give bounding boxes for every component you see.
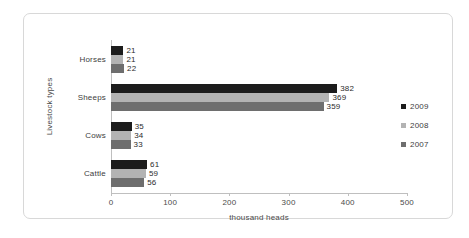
x-axis-tick-label: 0 [109,198,114,207]
bar-value-label: 21 [126,46,135,55]
y-axis-category-labels: HorsesSheepsCowsCattle [58,40,106,192]
legend-swatch-icon [401,142,406,147]
bar-value-label: 22 [127,64,136,73]
x-axis-line [111,193,408,194]
bar [111,93,329,102]
legend-swatch-icon [401,104,406,109]
bar [111,102,324,111]
plot-area: 212122382369359353433615956 [111,40,407,192]
x-axis-tick [348,193,349,196]
x-axis-tick-label: 200 [222,198,236,207]
bar [111,160,147,169]
bar-value-label: 56 [147,178,156,187]
legend-label: 2009 [410,102,429,111]
bar-value-label: 34 [134,131,143,140]
bar [111,46,123,55]
x-axis-tick-label: 300 [282,198,296,207]
chart-frame: 0100200300400500 thousand heads Livestoc… [23,13,453,219]
x-axis-tick [407,193,408,196]
x-axis-tick [170,193,171,196]
x-axis-title: thousand heads [111,213,407,222]
bar [111,55,123,64]
x-axis-tick [289,193,290,196]
bar [111,178,144,187]
chart-figure: 0100200300400500 thousand heads Livestoc… [0,0,469,238]
bar-value-label: 61 [150,160,159,169]
x-axis-tick-label: 500 [400,198,414,207]
legend-item[interactable]: 2007 [401,136,461,153]
y-axis-title: Livestock types [45,57,54,157]
category-label: Sheeps [60,93,106,102]
bar-value-label: 59 [149,169,158,178]
legend-label: 2008 [410,121,429,130]
bar [111,169,146,178]
category-label: Cows [60,131,106,140]
bar [111,140,131,149]
bar-value-label: 382 [340,84,354,93]
bar [111,131,131,140]
bar-value-label: 369 [332,93,346,102]
chart-legend: 200920082007 [401,98,461,155]
legend-item[interactable]: 2009 [401,98,461,115]
bar-value-label: 359 [327,102,341,111]
bar [111,64,124,73]
legend-label: 2007 [410,140,429,149]
bar [111,84,337,93]
legend-item[interactable]: 2008 [401,117,461,134]
x-axis-tick [229,193,230,196]
bar-value-label: 33 [134,140,143,149]
category-label: Cattle [60,169,106,178]
bar-value-label: 35 [135,122,144,131]
bar-value-label: 21 [126,55,135,64]
x-axis-tick-label: 400 [341,198,355,207]
x-axis-tick-label: 100 [163,198,177,207]
x-axis-tick [111,193,112,196]
legend-swatch-icon [401,123,406,128]
bar [111,122,132,131]
category-label: Horses [60,55,106,64]
